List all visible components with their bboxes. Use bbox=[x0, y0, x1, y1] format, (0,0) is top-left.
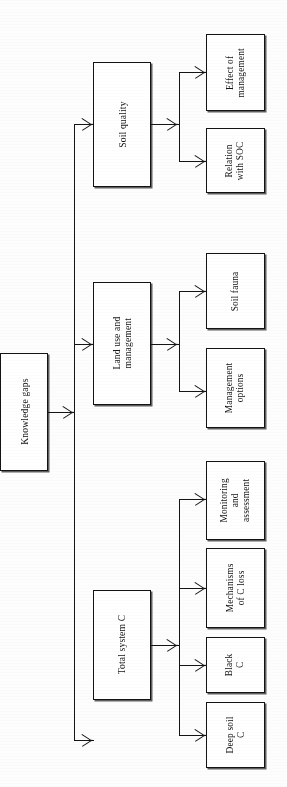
node-knowledge-gaps-label: Knowledge gaps bbox=[18, 379, 29, 445]
node-soil-fauna[interactable]: Soil fauna bbox=[206, 253, 265, 329]
node-monitoring-line2: and bbox=[230, 494, 240, 508]
connector-to-relation-with-soc bbox=[179, 161, 207, 162]
node-relation-with-soc-label: Relation with SOC bbox=[225, 141, 247, 179]
node-mechanisms-of-c-loss-label: Mechanisms of C loss bbox=[225, 564, 247, 613]
connector-soil-quality-out bbox=[151, 124, 179, 125]
node-effect-of-management-line1: Effect of bbox=[225, 55, 235, 89]
node-black-c-line1: Black bbox=[225, 654, 235, 677]
connector-to-soil-fauna bbox=[179, 291, 207, 292]
node-relation-with-soc-line1: Relation bbox=[225, 144, 235, 177]
connector-bus-to-land-use bbox=[74, 344, 94, 345]
node-land-use-line1: Land use and bbox=[111, 317, 122, 370]
node-mechanisms-of-c-loss[interactable]: Mechanisms of C loss bbox=[206, 548, 265, 628]
flowchart-canvas: Knowledge gaps Soil quality Land use and… bbox=[0, 0, 287, 787]
connector-to-monitoring-and-assessment bbox=[179, 499, 207, 500]
connector-bus-to-total-system-c bbox=[74, 740, 94, 741]
node-management-options[interactable]: Management options bbox=[206, 348, 265, 428]
node-deep-soil-c-line2: C bbox=[236, 732, 246, 738]
connector-to-management-options bbox=[179, 391, 207, 392]
node-effect-of-management-line2: management bbox=[236, 48, 246, 97]
node-management-options-line1: Management bbox=[225, 363, 235, 413]
node-land-use-and-management[interactable]: Land use and management bbox=[93, 282, 151, 405]
connector-land-use-out bbox=[151, 344, 179, 345]
connector-to-mechanisms-of-c-loss bbox=[179, 588, 207, 589]
node-land-use-line2: management bbox=[122, 318, 133, 369]
node-knowledge-gaps[interactable]: Knowledge gaps bbox=[0, 353, 48, 471]
node-deep-soil-c-line1: Deep soil bbox=[225, 716, 235, 753]
node-deep-soil-c-label: Deep soil C bbox=[225, 716, 247, 753]
node-relation-with-soc[interactable]: Relation with SOC bbox=[206, 128, 265, 193]
node-management-options-line2: options bbox=[235, 374, 245, 403]
node-deep-soil-c[interactable]: Deep soil C bbox=[206, 702, 265, 768]
connector-bus-to-soil-quality bbox=[74, 124, 94, 125]
bus-level1 bbox=[74, 124, 75, 740]
node-effect-of-management-label: Effect of management bbox=[225, 48, 247, 97]
node-relation-with-soc-line2: with SOC bbox=[235, 141, 245, 179]
node-mechanisms-line1: Mechanisms bbox=[225, 564, 235, 613]
bus-soil-quality bbox=[179, 72, 180, 161]
connector-to-black-c bbox=[179, 665, 207, 666]
node-soil-fauna-label: Soil fauna bbox=[230, 271, 241, 311]
node-soil-quality[interactable]: Soil quality bbox=[93, 62, 151, 187]
connector-root-to-bus bbox=[48, 412, 75, 413]
node-monitoring-and-assessment-label: Monitoring and assessment bbox=[219, 478, 252, 522]
connector-to-deep-soil-c bbox=[179, 735, 207, 736]
node-monitoring-line3: assessment bbox=[241, 479, 251, 522]
node-black-c[interactable]: Black C bbox=[206, 637, 265, 693]
node-monitoring-and-assessment[interactable]: Monitoring and assessment bbox=[206, 461, 265, 540]
node-mechanisms-line2: of C loss bbox=[235, 571, 245, 606]
bus-land-use bbox=[179, 291, 180, 391]
node-land-use-and-management-label: Land use and management bbox=[111, 317, 133, 370]
node-soil-quality-label: Soil quality bbox=[116, 101, 127, 147]
node-effect-of-management[interactable]: Effect of management bbox=[206, 34, 265, 111]
connector-to-effect-of-management bbox=[179, 72, 207, 73]
node-total-system-c-label: Total system C bbox=[116, 615, 127, 675]
connector-total-system-c-out bbox=[151, 645, 179, 646]
node-monitoring-line1: Monitoring bbox=[219, 478, 229, 522]
node-black-c-line2: C bbox=[236, 662, 246, 668]
node-total-system-c[interactable]: Total system C bbox=[93, 590, 151, 700]
bus-total-system-c bbox=[179, 499, 180, 735]
node-black-c-label: Black C bbox=[225, 654, 247, 677]
node-management-options-label: Management options bbox=[225, 363, 247, 413]
